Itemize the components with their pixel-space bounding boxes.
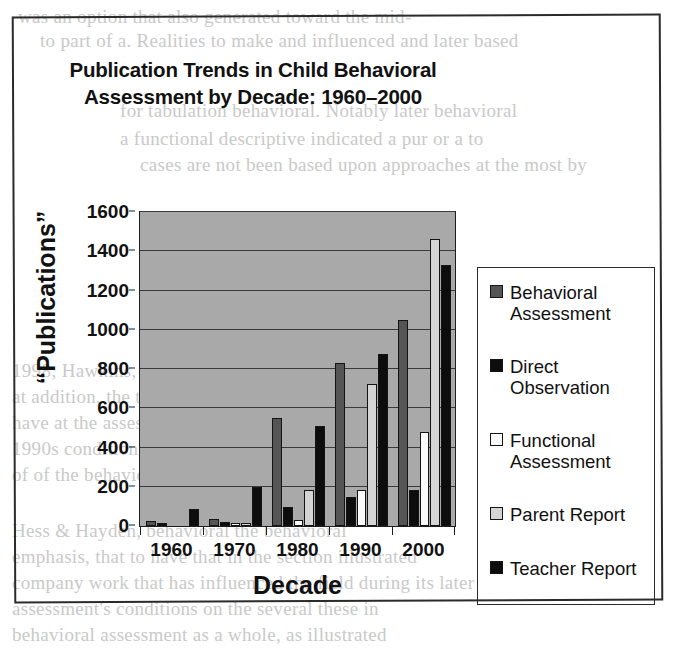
y-axis-tick-label: 1600 xyxy=(87,202,129,221)
bar-2000-behavioral-assessment xyxy=(398,320,408,526)
y-axis-tick-label: 0 xyxy=(118,516,129,535)
bar-1980-behavioral-assessment xyxy=(272,418,282,526)
chart-title: Publication Trends in Child Behavioral A… xyxy=(43,57,463,110)
bar-1990-teacher-report xyxy=(378,354,388,526)
bar-1990-parent-report xyxy=(367,384,377,526)
y-axis-tick-label: 400 xyxy=(97,437,129,456)
y-axis-tick-label: 600 xyxy=(97,398,129,417)
y-axis-tick-label: 200 xyxy=(97,476,129,495)
bar-1990-direct-observation xyxy=(346,497,356,526)
y-axis-tick xyxy=(129,250,135,251)
y-axis-tick xyxy=(129,485,135,486)
bar-1990-behavioral-assessment xyxy=(335,363,345,526)
x-axis-tick xyxy=(329,527,330,535)
bar-1960-direct-observation xyxy=(157,523,167,526)
y-axis-tick xyxy=(129,211,135,212)
legend-swatch-icon xyxy=(490,433,503,446)
x-axis-tick-label: 2000 xyxy=(402,539,444,561)
x-axis-tick xyxy=(454,527,455,535)
legend-item-label: Behavioral Assessment xyxy=(510,282,650,325)
bar-1980-parent-report xyxy=(304,490,314,526)
y-axis-tick-label: 1200 xyxy=(87,280,129,299)
x-axis-labels: 19601970198019902000 xyxy=(139,535,456,565)
bar-1970-parent-report xyxy=(241,523,251,526)
bar-2000-direct-observation xyxy=(409,490,419,526)
y-axis-tick-label: 1000 xyxy=(87,319,129,338)
chart-legend: Behavioral AssessmentDirect ObservationF… xyxy=(477,267,655,605)
legend-swatch-icon xyxy=(490,359,503,372)
bar-1990-functional-assessment xyxy=(357,490,367,526)
y-axis-tick xyxy=(129,368,135,369)
bar-1960-behavioral-assessment xyxy=(146,521,156,526)
y-axis-tick-label: 800 xyxy=(97,359,129,378)
bar-2000-teacher-report xyxy=(441,265,451,526)
y-axis-tick xyxy=(129,407,135,408)
bar-chart: Publication Trends in Child Behavioral A… xyxy=(13,15,662,602)
chart-title-line-2: Assessment by Decade: 1960–2000 xyxy=(43,84,463,111)
legend-swatch-icon xyxy=(490,285,503,298)
bar-1970-direct-observation xyxy=(220,522,230,526)
bar-1980-functional-assessment xyxy=(294,520,304,526)
legend-item-direct-observation[interactable]: Direct Observation xyxy=(490,356,650,399)
plot-area xyxy=(139,211,456,527)
bar-2000-functional-assessment xyxy=(420,432,430,526)
bar-1980-direct-observation xyxy=(283,507,293,526)
x-axis-tick xyxy=(266,527,267,535)
x-axis-tick xyxy=(203,527,204,535)
x-axis-title: Decade xyxy=(139,571,456,600)
y-axis-tick xyxy=(129,289,135,290)
bars-container xyxy=(140,212,455,526)
x-axis-tick xyxy=(392,527,393,535)
y-axis-labels: 02004006008001000120014001600 xyxy=(51,201,135,541)
bar-2000-parent-report xyxy=(430,239,440,527)
bar-1970-functional-assessment xyxy=(231,523,241,526)
legend-item-label: Functional Assessment xyxy=(510,430,650,473)
legend-swatch-icon xyxy=(490,561,503,574)
legend-swatch-icon xyxy=(490,507,503,520)
legend-item-teacher-report[interactable]: Teacher Report xyxy=(490,558,636,579)
y-axis-tick xyxy=(129,446,135,447)
legend-item-label: Direct Observation xyxy=(510,356,650,399)
bar-1980-teacher-report xyxy=(315,426,325,526)
legend-item-parent-report[interactable]: Parent Report xyxy=(490,504,625,525)
legend-item-behavioral-assessment[interactable]: Behavioral Assessment xyxy=(490,282,650,325)
legend-item-functional-assessment[interactable]: Functional Assessment xyxy=(490,430,650,473)
y-axis-tick xyxy=(129,328,135,329)
background-bleed-text: behavioral assessment as a whole, as ill… xyxy=(12,624,387,646)
x-axis-tick xyxy=(140,527,141,535)
legend-item-label: Teacher Report xyxy=(510,558,636,579)
bar-1960-teacher-report xyxy=(189,509,199,526)
x-axis-tick-label: 1970 xyxy=(213,539,255,561)
chart-title-line-1: Publication Trends in Child Behavioral xyxy=(43,57,463,84)
x-axis-tick-label: 1960 xyxy=(150,539,192,561)
y-axis-tick xyxy=(129,525,135,526)
x-axis-tick-label: 1980 xyxy=(276,539,318,561)
y-axis-tick-label: 1400 xyxy=(87,241,129,260)
bar-1970-teacher-report xyxy=(252,487,262,526)
bar-1970-behavioral-assessment xyxy=(209,519,219,526)
legend-item-label: Parent Report xyxy=(510,504,625,525)
x-axis-tick-label: 1990 xyxy=(339,539,381,561)
